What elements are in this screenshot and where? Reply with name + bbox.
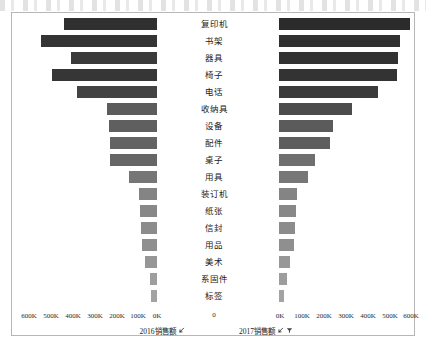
category-label: 桌子 [167, 152, 261, 169]
bar-right-2017[interactable] [279, 273, 287, 285]
bar-right-2017[interactable] [279, 154, 315, 166]
chart-row: 收纳具 [12, 101, 416, 118]
category-label: 标签 [167, 288, 261, 305]
chart-row: 桌子 [12, 152, 416, 169]
category-label: 美术 [167, 254, 261, 271]
bar-right-2017[interactable] [279, 103, 352, 115]
bar-left-2016[interactable] [110, 154, 157, 166]
bar-left-2016[interactable] [41, 35, 157, 47]
chart-row: 装订机 [12, 186, 416, 203]
sort-ascending-icon-right[interactable] [277, 327, 284, 336]
chart-row: 书架 [12, 33, 416, 50]
category-label: 用品 [167, 237, 261, 254]
bar-left-2016[interactable] [141, 222, 157, 234]
category-label: 器具 [167, 50, 261, 67]
bar-left-2016[interactable] [110, 137, 157, 149]
x-axis-right-title-text: 2017销售额 [239, 327, 275, 336]
category-label: 设备 [167, 118, 261, 135]
category-label: 书架 [167, 33, 261, 50]
chart-frame: 复印机书架器具椅子电话收纳具设备配件桌子用具装订机纸张信封用品美术系固件标签 6… [11, 12, 415, 336]
bar-right-2017[interactable] [279, 188, 297, 200]
chart-row: 电话 [12, 84, 416, 101]
bar-left-2016[interactable] [140, 205, 157, 217]
bar-right-2017[interactable] [279, 18, 410, 30]
category-label: 系固件 [167, 271, 261, 288]
bar-right-2017[interactable] [279, 290, 284, 302]
category-label: 用具 [167, 169, 261, 186]
chart-row: 椅子 [12, 67, 416, 84]
chart-row: 纸张 [12, 203, 416, 220]
category-label: 复印机 [167, 16, 261, 33]
bar-right-2017[interactable] [279, 222, 295, 234]
bar-right-2017[interactable] [279, 86, 378, 98]
bar-left-2016[interactable] [142, 239, 157, 251]
x-axis-right-title[interactable]: 2017销售额 [116, 325, 416, 337]
filter-icon-right[interactable] [286, 327, 293, 336]
category-label: 信封 [167, 220, 261, 237]
chart-row: 配件 [12, 135, 416, 152]
center-axis-zero-label: 0 [167, 311, 261, 319]
bar-right-2017[interactable] [279, 256, 290, 268]
category-label: 电话 [167, 84, 261, 101]
bar-left-2016[interactable] [139, 188, 157, 200]
bar-right-2017[interactable] [279, 205, 296, 217]
chart-row: 设备 [12, 118, 416, 135]
top-noise-band [0, 0, 426, 11]
chart-row: 标签 [12, 288, 416, 305]
bar-left-2016[interactable] [77, 86, 157, 98]
category-label: 装订机 [167, 186, 261, 203]
bar-left-2016[interactable] [71, 52, 157, 64]
bar-right-2017[interactable] [279, 171, 308, 183]
bar-right-2017[interactable] [279, 120, 333, 132]
bar-right-2017[interactable] [279, 52, 398, 64]
bar-left-2016[interactable] [52, 69, 157, 81]
category-label: 纸张 [167, 203, 261, 220]
plot-area[interactable]: 复印机书架器具椅子电话收纳具设备配件桌子用具装订机纸张信封用品美术系固件标签 [12, 13, 416, 337]
bar-left-2016[interactable] [109, 120, 157, 132]
bar-left-2016[interactable] [145, 256, 157, 268]
chart-row: 器具 [12, 50, 416, 67]
chart-row: 用具 [12, 169, 416, 186]
bar-right-2017[interactable] [279, 69, 397, 81]
category-label: 配件 [167, 135, 261, 152]
bar-right-2017[interactable] [279, 137, 330, 149]
chart-row: 美术 [12, 254, 416, 271]
category-label: 椅子 [167, 67, 261, 84]
chart-row: 信封 [12, 220, 416, 237]
axis-tick-label: 600K [398, 311, 424, 322]
bar-right-2017[interactable] [279, 35, 400, 47]
bar-left-2016[interactable] [151, 290, 157, 302]
chart-row: 用品 [12, 237, 416, 254]
bar-left-2016[interactable] [129, 171, 157, 183]
bar-left-2016[interactable] [107, 103, 157, 115]
bar-right-2017[interactable] [279, 239, 294, 251]
bar-left-2016[interactable] [64, 18, 157, 30]
bar-left-2016[interactable] [150, 273, 157, 285]
chart-row: 系固件 [12, 271, 416, 288]
category-label: 收纳具 [167, 101, 261, 118]
chart-row: 复印机 [12, 16, 416, 33]
